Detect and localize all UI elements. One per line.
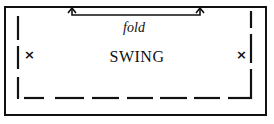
left-x-mark-icon: × — [24, 48, 35, 61]
swing-label: SWING — [0, 48, 274, 66]
fold-label: fold — [0, 20, 268, 36]
right-x-mark-icon: × — [236, 48, 247, 61]
fold-bracket — [68, 8, 204, 15]
